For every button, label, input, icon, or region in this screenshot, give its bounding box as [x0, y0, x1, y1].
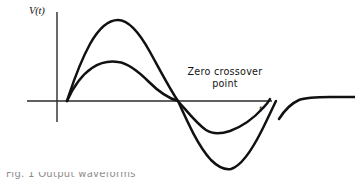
waveform-plot — [0, 0, 355, 179]
figure-caption: Fig. 1 Output waveforms — [6, 172, 136, 179]
annotation-line-2: point — [182, 78, 268, 90]
caption-strip: Fig. 1 Output waveforms — [0, 172, 355, 179]
zero-crossover-annotation: Zero crossover point — [182, 66, 268, 90]
waveform-figure: V(t) t Zero crossover point Fig. 1 Outpu… — [0, 0, 355, 179]
recovery-plateau-waveform — [279, 97, 355, 119]
y-axis-label: V(t) — [29, 6, 45, 17]
x-axis-label: t — [259, 104, 262, 114]
large-amplitude-waveform — [67, 20, 276, 169]
annotation-line-1: Zero crossover — [182, 66, 268, 78]
waveform-curves-group — [67, 20, 355, 169]
